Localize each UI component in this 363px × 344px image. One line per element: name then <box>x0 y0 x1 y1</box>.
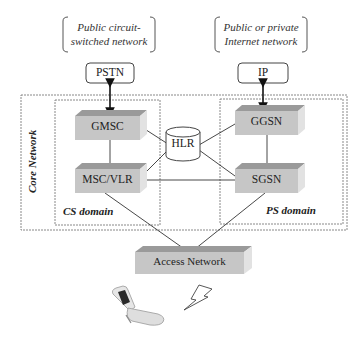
ggsn-hlr-link <box>199 124 235 145</box>
pstn-network-label-line1: Public circuit- <box>63 20 155 34</box>
sgsn-access-link <box>190 193 265 253</box>
gmsc-label: GMSC <box>75 120 140 132</box>
core-network-label: Core Network <box>26 130 38 193</box>
pstn-network-label: Public circuit- switched network <box>63 20 155 48</box>
pstn-network-label-line2: switched network <box>63 34 155 48</box>
diagram-canvas <box>0 0 363 344</box>
ggsn-label: GGSN <box>235 115 298 127</box>
mscvlr-label: MSC/VLR <box>75 173 140 185</box>
internet-network-label-line1: Public or private <box>215 20 307 34</box>
access-network-label: Access Network <box>135 255 244 267</box>
pstn-label: PSTN <box>86 66 134 78</box>
mscvlr-access-link <box>105 193 190 253</box>
internet-network-label-line2: Internet network <box>215 34 307 48</box>
sgsn-hlr-link <box>199 150 235 176</box>
mobile-phone-icon <box>112 286 163 325</box>
wireless-signal-icon <box>184 285 212 310</box>
ip-label: IP <box>238 66 288 78</box>
ps-domain-label: PS domain <box>266 204 316 216</box>
internet-network-label: Public or private Internet network <box>215 20 307 48</box>
sgsn-label: SGSN <box>235 173 298 185</box>
hlr-label: HLR <box>166 137 200 149</box>
cs-domain-label: CS domain <box>63 205 113 217</box>
